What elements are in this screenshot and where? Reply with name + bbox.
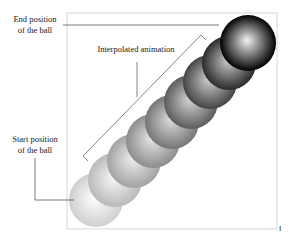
- start-position-label-line1: Start position: [4, 134, 66, 145]
- end-position-label-line1: End position: [4, 14, 66, 25]
- end-position-label-line2: of the ball: [4, 25, 66, 36]
- ball-animation-diagram: End position of the ball Start position …: [0, 0, 292, 239]
- ball-end: [220, 15, 276, 71]
- start-position-leader-line: [35, 158, 74, 200]
- page-mark: I: [279, 224, 281, 233]
- end-position-label: End position of the ball: [4, 14, 66, 36]
- interpolated-animation-label: Interpolated animation: [80, 44, 192, 55]
- start-position-label-line2: of the ball: [4, 145, 66, 156]
- start-position-label: Start position of the ball: [4, 134, 66, 156]
